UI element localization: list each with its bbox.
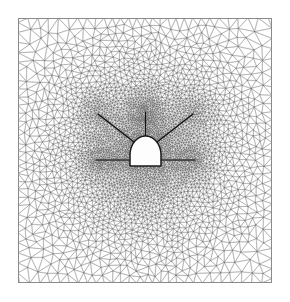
bolt-upper-left-diagonal <box>98 114 134 142</box>
figure-root <box>0 0 290 302</box>
tunnel-outline <box>130 136 161 166</box>
bolt-upper-right-diagonal <box>157 114 193 142</box>
tunnel-opening <box>130 136 161 166</box>
overlay-layer <box>0 0 290 302</box>
